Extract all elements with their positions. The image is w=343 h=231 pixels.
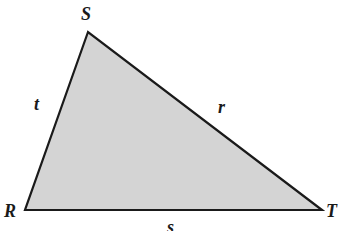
triangle-rst <box>25 32 322 210</box>
side-label-t: t <box>34 94 40 114</box>
triangle-diagram: S R T t r s <box>0 0 343 231</box>
vertex-label-r: R <box>3 201 16 221</box>
side-label-r: r <box>218 97 226 117</box>
vertex-label-t: T <box>326 201 338 221</box>
vertex-label-s: S <box>81 4 91 24</box>
side-label-s: s <box>166 217 174 231</box>
